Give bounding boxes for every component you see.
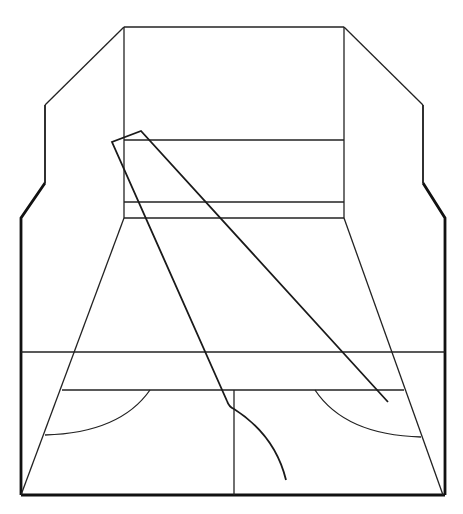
outer-frame-right [344,27,423,105]
triangle [112,131,388,402]
right-arc [315,390,421,437]
floor-perspective-left [21,218,124,495]
diagram-canvas [0,0,463,514]
outer-frame-left-bottom [21,183,45,495]
room-diagram [0,0,463,514]
left-arc [45,390,150,435]
floor-perspective-right [344,218,443,495]
curved-tail [227,401,286,480]
outer-frame-left [45,27,124,105]
